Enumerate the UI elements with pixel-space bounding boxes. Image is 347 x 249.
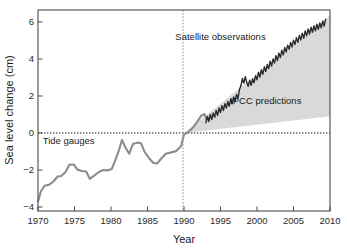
x-axis-tick-label: 1980 — [100, 215, 121, 226]
y-axis-tick-label: 2 — [29, 90, 34, 101]
sea-level-change-chart: 197019751980198519901995200020052010 −4−… — [0, 0, 347, 249]
y-axis-tick-label: 6 — [29, 16, 34, 27]
x-axis-label: Year — [173, 233, 196, 245]
x-axis-tick-label: 1995 — [210, 215, 231, 226]
x-axis-ticks: 197019751980198519901995200020052010 — [27, 207, 340, 227]
x-axis-tick-label: 1970 — [27, 215, 48, 226]
y-axis-tick-label: 4 — [29, 53, 34, 64]
y-axis-tick-label: 0 — [29, 127, 34, 138]
x-axis-tick-label: 1985 — [137, 215, 158, 226]
x-axis-tick-label: 2010 — [319, 215, 340, 226]
y-axis-tick-label: −4 — [23, 201, 34, 212]
annotation-ipcc-predictions: IPCC predictions — [230, 95, 302, 106]
x-axis-tick-label: 1990 — [173, 215, 194, 226]
y-axis-tick-label: −2 — [23, 164, 34, 175]
annotation-tide-gauges: Tide gauges — [43, 135, 95, 146]
chart-svg: 197019751980198519901995200020052010 −4−… — [0, 0, 347, 249]
x-axis-tick-label: 2000 — [246, 215, 267, 226]
x-axis-tick-label: 2005 — [283, 215, 304, 226]
y-axis-label: Sea level change (cm) — [3, 55, 15, 164]
x-axis-tick-label: 1975 — [64, 215, 85, 226]
annotation-satellite-observations: Satellite observations — [175, 31, 266, 42]
